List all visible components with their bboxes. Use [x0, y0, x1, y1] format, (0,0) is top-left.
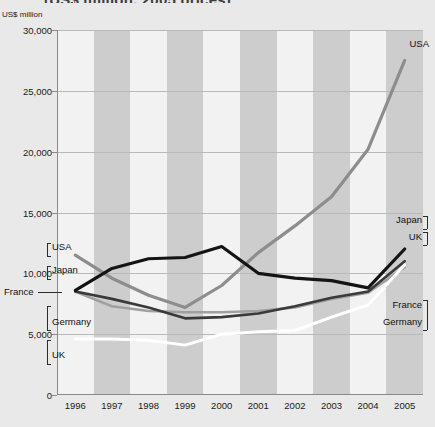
- callout-bracket-uk-l: [47, 340, 48, 364]
- callout-bracket-arm: [47, 364, 51, 365]
- chart-title: (US$ million, 2005 prices): [44, 0, 231, 3]
- y-axis-tick-label: 25,000: [23, 85, 52, 96]
- line-series-usa: [75, 60, 404, 307]
- y-axis-unit-label: US$ million: [2, 10, 42, 19]
- series-label-uk: UK: [50, 349, 67, 360]
- callout-bracket-arm: [423, 229, 427, 230]
- y-axis-tick-labels: 05,00010,00015,00020,00025,00030,000: [0, 30, 52, 395]
- x-axis-tick-label: 2002: [284, 400, 305, 411]
- line-series-uk: [75, 265, 404, 345]
- x-axis-tick-label: 1997: [101, 400, 122, 411]
- series-label-france: France: [390, 299, 424, 310]
- callout-bracket-arm: [47, 306, 51, 307]
- x-axis-tick-label: 1999: [175, 400, 196, 411]
- x-axis-tick-label: 2001: [248, 400, 269, 411]
- y-axis-tick-label: 15,000: [23, 207, 52, 218]
- callout-bracket-arm: [47, 340, 51, 341]
- callout-bracket-japan-r: [427, 216, 428, 229]
- callout-bracket-arm: [47, 279, 51, 280]
- x-axis-tick-label: 1996: [65, 400, 86, 411]
- y-axis-tick-label: 20,000: [23, 146, 52, 157]
- series-lines: [57, 30, 423, 395]
- series-label-japan: Japan: [394, 214, 424, 225]
- series-label-usa: USA: [407, 38, 431, 49]
- x-axis-tick-label: 2000: [211, 400, 232, 411]
- x-axis-tick-label: 1998: [138, 400, 159, 411]
- series-label-japan: Japan: [50, 264, 80, 275]
- line-series-germany: [75, 267, 404, 312]
- callout-bracket-japan-l: [47, 266, 48, 279]
- x-axis-tick-label: 2005: [394, 400, 415, 411]
- callout-bracket-usa-l: [47, 243, 48, 256]
- series-label-usa: USA: [50, 241, 74, 252]
- callout-bracket-fg-r: [427, 300, 428, 330]
- chart-root: (US$ million, 2005 prices) US$ million 0…: [0, 0, 435, 427]
- callout-bracket-germany-l: [47, 306, 48, 330]
- plot-area: [57, 30, 423, 395]
- callout-bracket-uk-r: [427, 232, 428, 245]
- series-label-germany: Germany: [50, 316, 93, 327]
- callout-bracket-arm: [47, 256, 51, 257]
- callout-bracket-arm: [47, 330, 51, 331]
- callout-bracket-arm: [423, 330, 427, 331]
- callout-leader-france: [38, 292, 62, 293]
- x-axis-tick-label: 2003: [321, 400, 342, 411]
- callout-bracket-arm: [423, 245, 427, 246]
- series-label-uk: UK: [407, 231, 424, 242]
- series-label-germany: Germany: [381, 316, 424, 327]
- y-axis-tick: [52, 395, 57, 396]
- y-axis-tick-label: 30,000: [23, 25, 52, 36]
- series-label-france: France: [2, 286, 36, 297]
- x-axis-tick-label: 2004: [358, 400, 379, 411]
